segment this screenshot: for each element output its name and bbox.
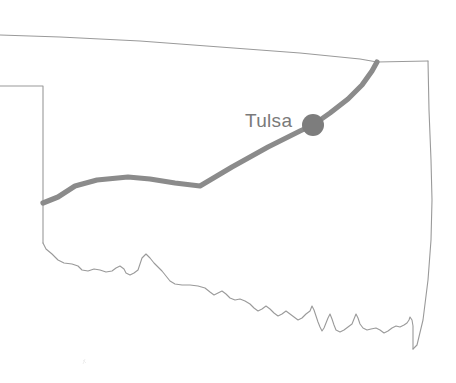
border-east	[413, 61, 432, 349]
border-north	[0, 35, 428, 62]
city-marker-tulsa[interactable]	[302, 114, 324, 136]
border-south-red-river	[43, 243, 413, 349]
border-panhandle-south	[0, 86, 43, 243]
map-canvas: Tulsa	[0, 0, 456, 383]
route-line[interactable]	[43, 62, 377, 203]
map-svg: Tulsa	[0, 0, 456, 383]
city-label-tulsa: Tulsa	[245, 110, 292, 131]
paper-artifact	[83, 359, 86, 364]
